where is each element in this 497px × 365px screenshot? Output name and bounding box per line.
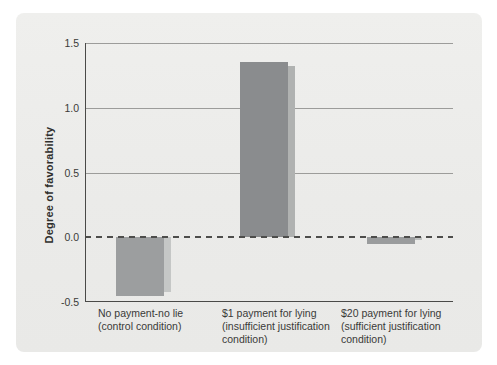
x-category-label: $1 payment for lying (insufficient justi… bbox=[222, 307, 352, 346]
bar-1 bbox=[116, 237, 164, 295]
y-tick-label: -0.5 bbox=[49, 296, 79, 308]
y-tick-label: 0.0 bbox=[49, 231, 79, 243]
zero-baseline bbox=[85, 236, 453, 238]
gridline bbox=[85, 43, 453, 44]
y-tick-label: 0.5 bbox=[49, 167, 79, 179]
x-axis-line bbox=[85, 301, 453, 302]
x-category-label: $20 payment for lying (sufficient justif… bbox=[341, 307, 471, 346]
x-category-label: No payment-no lie (control condition) bbox=[98, 307, 228, 333]
y-tick-label: 1.0 bbox=[49, 102, 79, 114]
y-axis-line bbox=[85, 43, 86, 302]
plot-area bbox=[85, 43, 453, 302]
y-tick-label: 1.5 bbox=[49, 37, 79, 49]
bar-2 bbox=[240, 62, 288, 237]
